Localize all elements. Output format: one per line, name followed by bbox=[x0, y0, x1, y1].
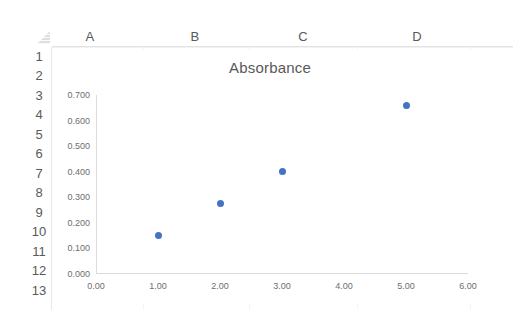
y-axis-tick-label: 0.100 bbox=[50, 243, 90, 253]
row-header-12[interactable]: 12 bbox=[26, 263, 52, 278]
row-header-11[interactable]: 11 bbox=[26, 244, 52, 259]
y-axis-tick-label: 0.700 bbox=[50, 90, 90, 100]
column-header-a[interactable]: A bbox=[60, 26, 120, 47]
embedded-chart[interactable]: Absorbance 0.0000.1000.2000.3000.4000.50… bbox=[56, 50, 508, 303]
y-axis-tick-label: 0.200 bbox=[50, 218, 90, 228]
select-all-corner-icon[interactable] bbox=[30, 28, 52, 46]
chart-plot-area[interactable]: 0.0000.1000.2000.3000.4000.5000.6000.700… bbox=[96, 95, 468, 274]
data-point[interactable] bbox=[217, 200, 224, 207]
y-axis-tick-label: 0.300 bbox=[50, 192, 90, 202]
x-axis-tick-label: 1.00 bbox=[138, 281, 178, 291]
x-axis-tick-label: 6.00 bbox=[448, 281, 488, 291]
x-axis-tick-label: 2.00 bbox=[200, 281, 240, 291]
x-axis-tick-label: 0.00 bbox=[76, 281, 116, 291]
column-header-c[interactable]: C bbox=[273, 26, 333, 47]
y-axis-line bbox=[96, 95, 97, 274]
row-header-10[interactable]: 10 bbox=[26, 224, 52, 239]
x-axis-line bbox=[96, 273, 468, 274]
y-axis-tick-label: 0.000 bbox=[50, 269, 90, 279]
chart-title: Absorbance bbox=[56, 59, 508, 76]
column-header-divider-soft bbox=[52, 47, 513, 48]
data-point[interactable] bbox=[279, 168, 286, 175]
y-axis-tick-label: 0.500 bbox=[50, 141, 90, 151]
column-header-d[interactable]: D bbox=[387, 26, 447, 47]
row-header-13[interactable]: 13 bbox=[26, 283, 52, 298]
row-header-column: 12345678910111213 bbox=[26, 47, 52, 310]
corner-hatch bbox=[37, 31, 50, 44]
row-header-2[interactable]: 2 bbox=[26, 68, 52, 83]
row-header-7[interactable]: 7 bbox=[26, 166, 52, 181]
x-axis-tick-label: 5.00 bbox=[386, 281, 426, 291]
column-header-row: ABCD bbox=[52, 26, 513, 47]
column-header-b[interactable]: B bbox=[165, 26, 225, 47]
data-point[interactable] bbox=[403, 102, 410, 109]
row-header-8[interactable]: 8 bbox=[26, 185, 52, 200]
row-header-4[interactable]: 4 bbox=[26, 107, 52, 122]
row-header-9[interactable]: 9 bbox=[26, 205, 52, 220]
row-header-5[interactable]: 5 bbox=[26, 127, 52, 142]
x-axis-tick-label: 3.00 bbox=[262, 281, 302, 291]
y-axis-tick-label: 0.600 bbox=[50, 116, 90, 126]
y-axis-tick-label: 0.400 bbox=[50, 167, 90, 177]
spreadsheet-canvas: ABCD 12345678910111213 Absorbance 0.0000… bbox=[0, 0, 513, 310]
row-header-6[interactable]: 6 bbox=[26, 146, 52, 161]
data-point[interactable] bbox=[155, 232, 162, 239]
row-header-1[interactable]: 1 bbox=[26, 49, 52, 64]
row-header-3[interactable]: 3 bbox=[26, 88, 52, 103]
x-axis-tick-label: 4.00 bbox=[324, 281, 364, 291]
